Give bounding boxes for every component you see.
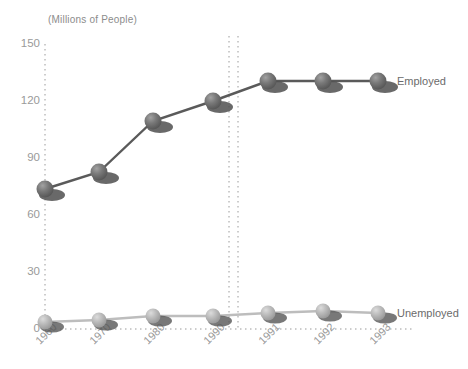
series-label-unemployed: Unemployed: [397, 307, 459, 319]
series-markers-unemployed: [38, 304, 398, 333]
series-markers-employed: [37, 73, 399, 202]
period-divider-lines: [229, 36, 238, 329]
chart-container: (Millions of People) 150 120 90 60 30 0 …: [0, 0, 468, 369]
series-label-employed: Employed: [397, 75, 446, 87]
